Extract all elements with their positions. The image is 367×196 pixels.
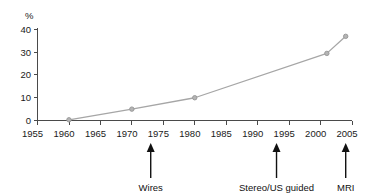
y-tick-label-20: 20 <box>20 69 31 80</box>
x-tick-label-1965: 1965 <box>85 128 106 139</box>
annotation-label-wires: Wires <box>139 182 164 193</box>
y-tick-label-0: 0 <box>26 115 31 126</box>
x-tick-label-1990: 1990 <box>242 128 263 139</box>
wires-arrow-head <box>147 143 155 152</box>
annotation-wires: Wires <box>139 143 164 193</box>
annotation-mri: MRI <box>337 143 354 193</box>
stereo-arrow-head <box>273 143 281 152</box>
x-tick-label-1970: 1970 <box>116 128 137 139</box>
x-tick-label-1960: 1960 <box>54 128 75 139</box>
x-tick-label-1975: 1975 <box>148 128 169 139</box>
chart-figure: 50% cure 40 30 20 10 0 % 1955 19 <box>0 0 367 196</box>
annotation-stereo-us-guided: Stereo/US guided <box>239 143 314 193</box>
data-point-1960 <box>67 118 71 122</box>
y-axis-unit-label: % <box>25 10 34 21</box>
y-tick-label-40: 40 <box>20 24 31 35</box>
data-point-2001 <box>325 51 329 55</box>
x-tick-label-2005: 2005 <box>337 128 358 139</box>
data-series-line <box>69 36 346 119</box>
x-tick-label-1955: 1955 <box>22 128 43 139</box>
y-tick-label-30: 30 <box>20 47 31 58</box>
x-tick-label-1985: 1985 <box>211 128 232 139</box>
x-tick-label-1995: 1995 <box>274 128 295 139</box>
data-point-2004 <box>344 34 348 38</box>
annotation-label-stereo-us-guided: Stereo/US guided <box>239 182 314 193</box>
x-tick-label-1980: 1980 <box>179 128 200 139</box>
x-tick-label-2000: 2000 <box>305 128 326 139</box>
data-point-1980 <box>193 96 197 100</box>
data-point-1970 <box>130 107 134 111</box>
y-tick-label-10: 10 <box>20 92 31 103</box>
mri-arrow-head <box>342 143 350 152</box>
line-chart-plot: 40 30 20 10 0 % 1955 1960 1965 1970 1975… <box>0 0 367 196</box>
annotation-label-mri: MRI <box>337 182 354 193</box>
